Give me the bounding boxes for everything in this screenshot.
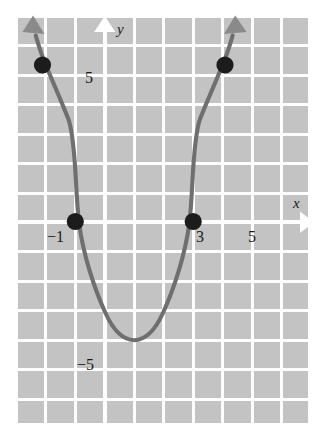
y-tick-label-neg5: −5 [77, 357, 94, 373]
y-tick-label-5: 5 [85, 70, 93, 86]
x-tick-label-neg1: −1 [47, 229, 64, 245]
marked-point [67, 213, 84, 230]
x-tick-label-3: 3 [196, 229, 204, 245]
x-tick-label-5: 5 [248, 229, 256, 245]
parabola-plot [0, 0, 323, 440]
marked-point [216, 56, 233, 73]
x-axis-label: x [293, 196, 300, 211]
graph-figure: y x 5 −5 −1 3 5 [0, 0, 323, 440]
y-axis-label: y [117, 22, 124, 37]
marked-point [34, 56, 51, 73]
